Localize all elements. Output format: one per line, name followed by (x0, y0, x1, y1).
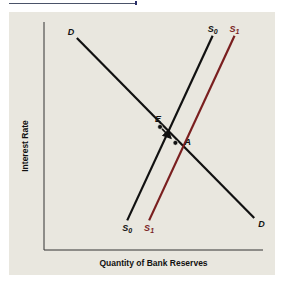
chart: DDS0S0S1S1 EA Quantity of Bank Reserves … (0, 0, 295, 281)
point-a (173, 140, 178, 145)
point-e (158, 124, 163, 129)
label-s1-top: S1 (230, 24, 240, 35)
label-s1-bottom: S1 (144, 223, 154, 234)
series-line-s0 (127, 36, 212, 221)
label-s0-top: S0 (208, 24, 218, 35)
label-d-end: D (258, 219, 265, 229)
label-point-a: A (183, 137, 191, 147)
y-axis-title: Interest Rate (20, 120, 30, 172)
label-s0-bottom: S0 (122, 223, 132, 234)
series-line-d (77, 38, 254, 218)
x-axis-title: Quantity of Bank Reserves (99, 258, 207, 268)
label-point-e: E (155, 114, 162, 124)
label-d-start: D (68, 27, 75, 37)
